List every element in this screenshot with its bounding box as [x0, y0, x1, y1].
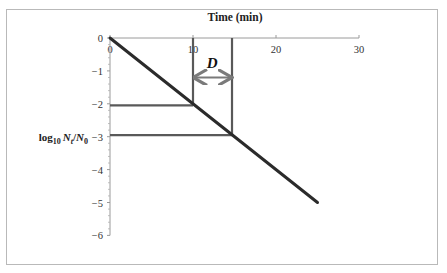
y-tick-label: −6 [92, 230, 103, 241]
x-axis-title: Time (min) [207, 11, 262, 24]
axes: 01020300−1−2−3−4−5−6 [92, 33, 364, 241]
d-value-label: D [206, 55, 218, 71]
chart-canvas: Time (min) 01020300−1−2−3−4−5−6 D log10N… [0, 0, 447, 273]
y-axis-title: log10Nt/N0 [39, 131, 88, 146]
y-tick-label: −1 [92, 66, 103, 77]
x-tick-label: 20 [271, 44, 282, 55]
y-tick-label: −4 [92, 165, 104, 176]
y-tick-label: −3 [92, 132, 103, 143]
y-tick-label: −5 [92, 198, 103, 209]
y-tick-label: 0 [98, 33, 103, 44]
y-tick-label: −2 [92, 99, 103, 110]
x-tick-label: 30 [354, 44, 365, 55]
